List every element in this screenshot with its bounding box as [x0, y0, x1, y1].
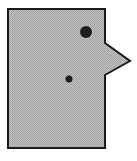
small-dot: [66, 76, 73, 83]
diagram-canvas: [0, 0, 137, 161]
large-dot: [80, 26, 92, 38]
